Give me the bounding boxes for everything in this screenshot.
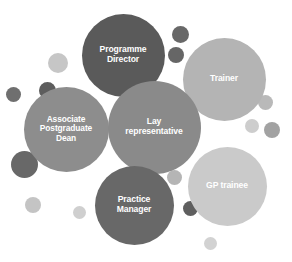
bubble-diagram-canvas: Programme DirectorTrainerAssociate Postg…	[0, 0, 292, 262]
deco-dark-top-mid-lower	[168, 47, 184, 63]
deco-light-bottom-left	[25, 197, 41, 213]
deco-light-bottom-right	[204, 237, 217, 250]
bubble-label-associate-postgraduate-dean: Associate Postgraduate Dean	[37, 115, 95, 143]
bubble-practice-manager[interactable]: Practice Manager	[95, 166, 174, 245]
bubble-associate-postgraduate-dean[interactable]: Associate Postgraduate Dean	[24, 87, 109, 172]
bubble-label-trainer: Trainer	[207, 74, 241, 84]
deco-dark-right	[264, 122, 280, 138]
bubble-gp-trainee[interactable]: GP trainee	[188, 147, 267, 226]
deco-dark-top-mid	[172, 26, 189, 43]
deco-light-right	[245, 119, 259, 133]
bubble-label-gp-trainee: GP trainee	[203, 181, 251, 191]
deco-light-bottom-mid	[73, 206, 86, 219]
bubble-lay-representative[interactable]: Lay representative	[108, 81, 201, 174]
bubble-label-programme-director: Programme Director	[97, 45, 150, 64]
deco-light-top-left	[48, 53, 68, 73]
bubble-label-practice-manager: Practice Manager	[114, 195, 155, 214]
bubble-label-lay-representative: Lay representative	[122, 117, 185, 136]
deco-dark-left-edge	[6, 87, 21, 102]
